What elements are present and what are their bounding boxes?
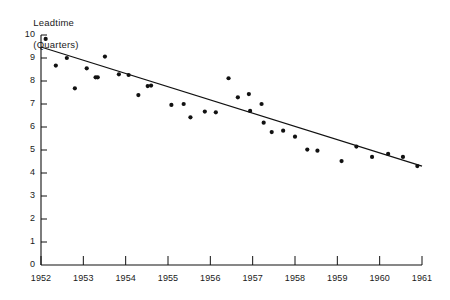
regression-line — [41, 47, 422, 166]
data-point — [354, 144, 358, 148]
axes — [41, 35, 422, 265]
data-point — [73, 86, 77, 90]
y-axis-tick-label: 1 — [21, 236, 35, 246]
x-axis-tick-label: 1952 — [21, 273, 61, 283]
trend-line — [41, 47, 422, 166]
y-axis-tick-label: 8 — [21, 75, 35, 85]
data-point — [65, 56, 69, 60]
x-axis-ticks — [41, 256, 422, 265]
data-point — [293, 135, 297, 139]
data-point — [85, 66, 89, 70]
x-axis-tick-label: 1961 — [402, 273, 442, 283]
y-axis-tick-label: 9 — [21, 52, 35, 62]
data-point — [270, 130, 274, 134]
data-point — [305, 147, 309, 151]
x-axis-tick-label: 1955 — [148, 273, 188, 283]
y-axis-tick-label: 7 — [21, 98, 35, 108]
data-point — [203, 109, 207, 113]
data-point — [262, 121, 266, 125]
data-point — [127, 73, 131, 77]
data-points — [44, 37, 420, 168]
data-point — [236, 95, 240, 99]
y-axis-tick-label: 5 — [21, 144, 35, 154]
data-point — [415, 164, 419, 168]
y-axis-tick-label: 6 — [21, 121, 35, 131]
data-point — [136, 93, 140, 97]
y-axis-tick-label: 2 — [21, 213, 35, 223]
data-point — [188, 115, 192, 119]
data-point — [281, 129, 285, 133]
data-point — [386, 152, 390, 156]
x-axis-tick-label: 1960 — [360, 273, 400, 283]
y-axis-tick-label: 0 — [21, 259, 35, 269]
x-axis-tick-label: 1954 — [106, 273, 146, 283]
x-axis-tick-label: 1959 — [317, 273, 357, 283]
y-axis-ticks — [41, 35, 47, 242]
y-axis-tick-label: 4 — [21, 167, 35, 177]
data-point — [103, 55, 107, 59]
leadtime-scatter-chart: Leadtime (Quarters) 012345678910 1952195… — [0, 0, 450, 300]
x-axis-tick-label: 1958 — [275, 273, 315, 283]
data-point — [96, 75, 100, 79]
data-point — [54, 63, 58, 67]
data-point — [370, 155, 374, 159]
data-point — [226, 76, 230, 80]
y-axis-tick-label: 3 — [21, 190, 35, 200]
data-point — [339, 159, 343, 163]
data-point — [44, 37, 48, 41]
data-point — [401, 155, 405, 159]
data-point — [248, 109, 252, 113]
data-point — [182, 102, 186, 106]
data-point — [146, 84, 150, 88]
data-point — [214, 110, 218, 114]
x-axis-tick-label: 1956 — [190, 273, 230, 283]
x-axis-tick-label: 1953 — [63, 273, 103, 283]
y-axis-tick-label: 10 — [21, 29, 35, 39]
chart-plot-area — [0, 0, 450, 300]
data-point — [315, 149, 319, 153]
data-point — [117, 72, 121, 76]
data-point — [247, 92, 251, 96]
x-axis-tick-label: 1957 — [233, 273, 273, 283]
data-point — [259, 102, 263, 106]
data-point — [169, 103, 173, 107]
